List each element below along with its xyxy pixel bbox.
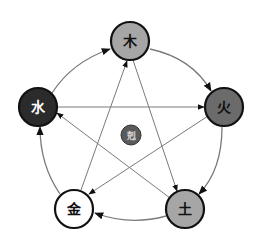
node-metal-label: 金: [66, 201, 82, 217]
line-wood-to-earth: [133, 60, 177, 191]
center-node-overcoming: 剋: [121, 125, 141, 145]
node-wood: 木: [111, 22, 149, 60]
center-label: 剋: [126, 130, 136, 141]
arc-fire-to-earth: [199, 127, 222, 194]
arc-earth-to-metal: [95, 213, 166, 220]
node-fire: 火: [205, 88, 243, 126]
node-wood-label: 木: [122, 33, 138, 49]
line-earth-to-water: [57, 113, 170, 198]
five-elements-diagram: 剋 木 火 土 金 水: [0, 0, 259, 243]
arc-wood-to-fire: [150, 49, 211, 91]
arc-water-to-wood: [52, 49, 110, 93]
node-fire-label: 火: [217, 99, 232, 115]
node-earth-label: 土: [178, 201, 192, 217]
arc-metal-to-water: [40, 127, 60, 194]
node-water: 水: [19, 88, 57, 126]
node-earth: 土: [166, 190, 204, 228]
line-metal-to-wood: [81, 61, 127, 190]
node-water-label: 水: [31, 99, 46, 115]
node-metal: 金: [55, 190, 93, 228]
